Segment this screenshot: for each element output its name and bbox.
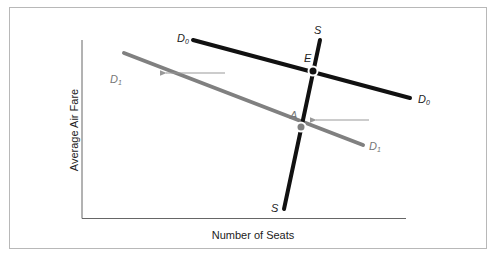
label-d1-right-sub: 1 (377, 146, 381, 153)
label-d1-right-main: D (369, 140, 377, 152)
demand-curve-d1 (124, 53, 363, 145)
diagram-canvas: D0 D0 D1 D1 S S E A Average Air Fare Num… (0, 0, 497, 261)
equilibrium-point-a (298, 124, 305, 131)
equilibrium-point-e (310, 68, 317, 75)
label-s-top: S (314, 25, 321, 36)
label-d1-left-sub: 1 (118, 79, 122, 86)
label-d1-left-main: D (110, 73, 118, 85)
x-axis-title: Number of Seats (212, 230, 295, 241)
label-d0-right: D0 (418, 94, 430, 106)
label-point-a: A (290, 110, 297, 121)
label-d0-left-sub: 0 (185, 38, 189, 45)
label-d1-left: D1 (110, 74, 122, 86)
label-d0-left-main: D (177, 32, 185, 44)
label-point-e: E (304, 53, 311, 64)
demand-curve-d0 (193, 40, 410, 98)
y-axis-title: Average Air Fare (69, 89, 80, 171)
label-d0-right-main: D (418, 93, 426, 105)
label-d1-right: D1 (369, 141, 381, 153)
label-s-bottom: S (271, 203, 278, 214)
label-d0-left: D0 (177, 33, 189, 45)
label-d0-right-sub: 0 (426, 99, 430, 106)
